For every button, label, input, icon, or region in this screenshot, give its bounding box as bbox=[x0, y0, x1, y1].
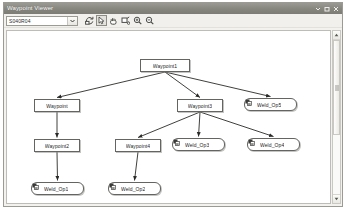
scroll-up-button[interactable] bbox=[333, 31, 340, 40]
window-title: Waypoint Viewer bbox=[7, 5, 315, 12]
viewer-body: Waypoint1WaypointWaypoint3Weld_Op5Waypoi… bbox=[4, 28, 342, 206]
weld-icon bbox=[248, 101, 255, 108]
select-pointer-button[interactable] bbox=[96, 15, 107, 26]
graph-node-label: Weld_Op2 bbox=[121, 186, 145, 192]
graph-node-weld_op2[interactable]: Weld_Op2 bbox=[108, 182, 161, 195]
graph-node-label: Waypoint2 bbox=[45, 143, 69, 149]
graph-edge bbox=[57, 72, 165, 98]
graph-node-waypoint1[interactable]: Waypoint1 bbox=[140, 59, 190, 72]
graph-node-label: Waypoint4 bbox=[126, 143, 150, 149]
graph-node-label: Weld_Op3 bbox=[185, 142, 209, 148]
graph-edge bbox=[135, 152, 139, 181]
graph-layer: Waypoint1WaypointWaypoint3Weld_Op5Waypoi… bbox=[7, 31, 330, 203]
graph-edge bbox=[200, 112, 274, 137]
chevron-down-icon[interactable] bbox=[67, 17, 77, 25]
title-bar[interactable]: Waypoint Viewer bbox=[4, 3, 342, 14]
weld-icon bbox=[251, 141, 258, 148]
toolbar: S040R04 bbox=[4, 14, 342, 28]
scroll-down-button[interactable] bbox=[333, 194, 340, 203]
graph-node-waypoint[interactable]: Waypoint bbox=[34, 99, 80, 112]
graph-node-weld_op1[interactable]: Weld_Op1 bbox=[31, 182, 84, 195]
scroll-thumb-grip bbox=[335, 85, 339, 90]
graph-edge bbox=[165, 72, 271, 97]
graph-edge bbox=[199, 112, 201, 137]
graph-node-label: Waypoint1 bbox=[153, 63, 177, 69]
graph-edge bbox=[57, 152, 58, 181]
scroll-track[interactable] bbox=[333, 40, 340, 194]
graph-node-label: Weld_Op1 bbox=[44, 186, 68, 192]
graph-node-waypoint3[interactable]: Waypoint3 bbox=[177, 99, 223, 112]
graph-node-label: Weld_Op4 bbox=[260, 142, 284, 148]
maximize-button[interactable] bbox=[324, 6, 330, 12]
minimize-button[interactable] bbox=[315, 6, 321, 12]
zoom-out-button[interactable] bbox=[144, 15, 155, 26]
graph-node-weld_op4[interactable]: Weld_Op4 bbox=[247, 138, 300, 151]
graph-node-weld_op3[interactable]: Weld_Op3 bbox=[172, 138, 225, 151]
vertical-scrollbar[interactable] bbox=[332, 30, 341, 204]
graph-node-waypoint4[interactable]: Waypoint4 bbox=[115, 139, 161, 152]
window-controls bbox=[315, 6, 340, 12]
combo-value: S040R04 bbox=[7, 18, 67, 24]
refresh-tree-button[interactable] bbox=[84, 15, 95, 26]
pan-hand-button[interactable] bbox=[108, 15, 119, 26]
waypoint-viewer-window: Waypoint Viewer S040R04 bbox=[3, 2, 343, 207]
graph-node-label: Waypoint3 bbox=[188, 103, 212, 109]
edge-layer bbox=[7, 31, 325, 204]
graph-canvas[interactable]: Waypoint1WaypointWaypoint3Weld_Op5Waypoi… bbox=[6, 30, 331, 204]
weld-icon bbox=[176, 141, 183, 148]
weld-icon bbox=[35, 185, 42, 192]
graph-edge bbox=[138, 112, 200, 138]
graph-node-label: Weld_Op5 bbox=[257, 102, 281, 108]
graph-node-waypoint2[interactable]: Waypoint2 bbox=[34, 139, 80, 152]
waypoint-select-combo[interactable]: S040R04 bbox=[6, 16, 78, 26]
close-button[interactable] bbox=[333, 6, 339, 12]
zoom-in-button[interactable] bbox=[132, 15, 143, 26]
fit-to-window-button[interactable] bbox=[120, 15, 131, 26]
weld-icon bbox=[112, 185, 119, 192]
graph-node-label: Waypoint bbox=[46, 103, 67, 109]
graph-node-weld_op5[interactable]: Weld_Op5 bbox=[244, 98, 297, 111]
scroll-thumb[interactable] bbox=[333, 40, 340, 135]
